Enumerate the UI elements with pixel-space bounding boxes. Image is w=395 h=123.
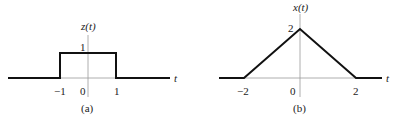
- panel-b-xlabel: t: [386, 72, 390, 84]
- panel-a-caption: (a): [81, 102, 94, 115]
- panel-b-signal-x: [219, 29, 382, 78]
- panel-a-signal-z: [8, 53, 170, 78]
- panel-a-xtick-0: 0: [80, 85, 86, 97]
- panel-b-xtick-2: 2: [353, 85, 359, 97]
- panel-b-ylabel: x(t): [292, 1, 309, 14]
- panel-a-xtick-1: 1: [114, 85, 120, 97]
- panel-a-ytick: 1: [80, 41, 86, 53]
- panel-a: z(t) 1 t −1 0 1 (a): [8, 20, 178, 115]
- panel-a-xtick-neg1: −1: [54, 85, 66, 97]
- panel-b: x(t) 2 t −2 0 2 (b): [219, 1, 390, 115]
- panel-b-caption: (b): [293, 102, 306, 115]
- panel-b-xtick-0: 0: [290, 85, 296, 97]
- panel-a-ylabel: z(t): [80, 20, 96, 33]
- figure: z(t) 1 t −1 0 1 (a) x(t) 2 t −2 0 2 (b): [0, 0, 395, 123]
- panel-b-ytick: 2: [288, 22, 294, 34]
- panel-b-xtick-neg2: −2: [237, 85, 249, 97]
- panel-a-xlabel: t: [174, 72, 178, 84]
